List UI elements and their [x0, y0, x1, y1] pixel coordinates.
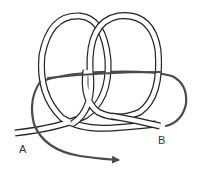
label-a: A	[19, 143, 27, 155]
right-loop-rope	[72, 16, 159, 124]
knot-diagram: A B	[0, 0, 202, 176]
label-b: B	[158, 134, 165, 146]
working-line-front	[32, 72, 160, 160]
